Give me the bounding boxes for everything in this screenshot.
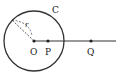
point-q [89,39,92,42]
label-q: Q [87,47,94,57]
point-o [32,39,35,42]
geometry-diagram: C r O P Q [0,0,121,77]
radius-arc-dashed [12,20,32,36]
point-p [46,39,49,42]
label-o: O [30,47,37,57]
label-p: P [45,47,51,57]
label-c: C [52,5,59,15]
